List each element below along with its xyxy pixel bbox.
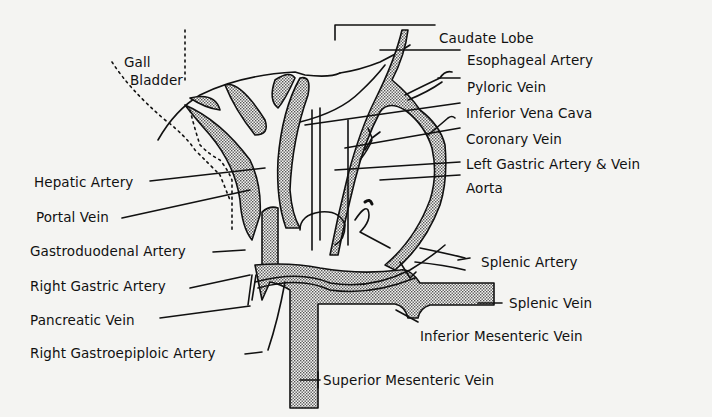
leader-portal-vein <box>122 190 250 218</box>
label-esophageal-artery: Esophageal Artery <box>467 53 593 68</box>
label-caudate-lobe: Caudate Lobe <box>439 31 534 46</box>
leader-right-gastric-artery <box>190 275 250 288</box>
label-right-gastroepiploic-artery: Right Gastroepiploic Artery <box>30 346 216 361</box>
label-inferior-vena-cava: Inferior Vena Cava <box>466 106 592 121</box>
label-gastroduodenal-artery: Gastroduodenal Artery <box>30 244 186 259</box>
leader-right-gastroepiploic-artery <box>245 352 262 354</box>
leader-gastroduodenal-artery <box>213 250 245 252</box>
label-superior-mesenteric-vein: Superior Mesenteric Vein <box>323 373 494 388</box>
label-inferior-mesenteric-vein: Inferior Mesenteric Vein <box>420 329 583 344</box>
gastroduodenal <box>262 207 278 268</box>
leader-splenic-artery <box>458 258 470 260</box>
label-left-gastric-artery-vein: Left Gastric Artery & Vein <box>466 157 640 172</box>
leader-pancreatic-vein <box>160 306 250 318</box>
label-pancreatic-vein: Pancreatic Vein <box>30 313 135 328</box>
leader-caudate-lobe <box>335 25 435 40</box>
label-pyloric-vein: Pyloric Vein <box>467 80 546 95</box>
label-splenic-artery: Splenic Artery <box>481 255 578 270</box>
label-right-gastric-artery: Right Gastric Artery <box>30 279 166 294</box>
portal-system-diagram: Gall Bladder Hepatic Artery Portal Vein … <box>0 0 712 417</box>
label-bladder: Bladder <box>130 73 183 88</box>
label-hepatic-artery: Hepatic Artery <box>34 175 133 190</box>
label-portal-vein: Portal Vein <box>36 210 109 225</box>
leader-aorta <box>380 175 460 180</box>
label-aorta: Aorta <box>466 181 503 196</box>
label-coronary-vein: Coronary Vein <box>466 132 562 147</box>
label-gall: Gall <box>124 55 151 70</box>
label-splenic-vein: Splenic Vein <box>509 296 592 311</box>
